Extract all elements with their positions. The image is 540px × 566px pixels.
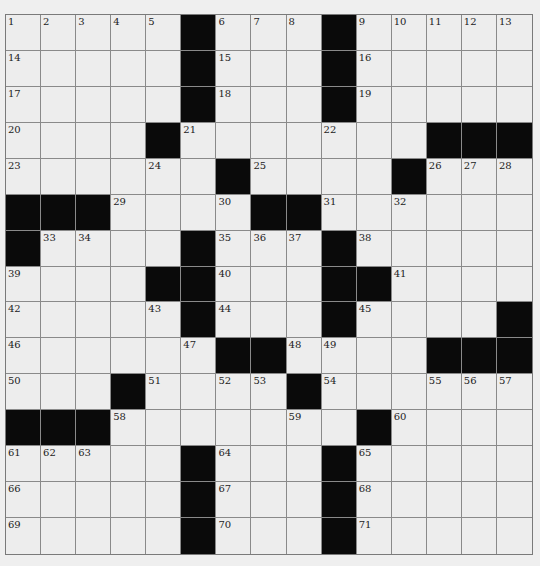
grid-cell[interactable] <box>76 338 111 374</box>
grid-cell[interactable]: 9 <box>357 15 392 51</box>
grid-cell[interactable]: 3 <box>76 15 111 51</box>
grid-cell[interactable] <box>497 51 532 87</box>
grid-cell[interactable] <box>392 518 427 554</box>
grid-cell[interactable]: 43 <box>146 302 181 338</box>
grid-cell[interactable]: 2 <box>41 15 76 51</box>
grid-cell[interactable] <box>392 51 427 87</box>
grid-cell[interactable]: 70 <box>216 518 251 554</box>
grid-cell[interactable] <box>462 267 497 303</box>
grid-cell[interactable] <box>497 195 532 231</box>
grid-cell[interactable]: 60 <box>392 410 427 446</box>
grid-cell[interactable] <box>287 446 322 482</box>
grid-cell[interactable] <box>76 374 111 410</box>
grid-cell[interactable] <box>392 374 427 410</box>
grid-cell[interactable] <box>216 410 251 446</box>
grid-cell[interactable]: 36 <box>251 231 286 267</box>
grid-cell[interactable] <box>146 410 181 446</box>
grid-cell[interactable] <box>427 446 462 482</box>
grid-cell[interactable] <box>76 123 111 159</box>
grid-cell[interactable] <box>497 231 532 267</box>
grid-cell[interactable]: 29 <box>111 195 146 231</box>
grid-cell[interactable]: 16 <box>357 51 392 87</box>
grid-cell[interactable] <box>427 410 462 446</box>
grid-cell[interactable] <box>76 87 111 123</box>
grid-cell[interactable] <box>427 518 462 554</box>
grid-cell[interactable]: 56 <box>462 374 497 410</box>
grid-cell[interactable] <box>392 338 427 374</box>
grid-cell[interactable] <box>76 267 111 303</box>
grid-cell[interactable]: 52 <box>216 374 251 410</box>
grid-cell[interactable]: 62 <box>41 446 76 482</box>
grid-cell[interactable] <box>181 195 216 231</box>
grid-cell[interactable] <box>181 159 216 195</box>
grid-cell[interactable] <box>287 87 322 123</box>
grid-cell[interactable] <box>146 482 181 518</box>
grid-cell[interactable] <box>462 446 497 482</box>
grid-cell[interactable] <box>287 302 322 338</box>
grid-cell[interactable]: 13 <box>497 15 532 51</box>
grid-cell[interactable] <box>146 231 181 267</box>
grid-cell[interactable]: 18 <box>216 87 251 123</box>
grid-cell[interactable] <box>392 231 427 267</box>
grid-cell[interactable] <box>111 231 146 267</box>
grid-cell[interactable] <box>322 410 357 446</box>
grid-cell[interactable]: 38 <box>357 231 392 267</box>
grid-cell[interactable]: 17 <box>6 87 41 123</box>
grid-cell[interactable]: 34 <box>76 231 111 267</box>
grid-cell[interactable]: 33 <box>41 231 76 267</box>
grid-cell[interactable]: 5 <box>146 15 181 51</box>
grid-cell[interactable] <box>76 159 111 195</box>
grid-cell[interactable] <box>357 374 392 410</box>
grid-cell[interactable] <box>251 302 286 338</box>
grid-cell[interactable] <box>76 482 111 518</box>
grid-cell[interactable] <box>251 410 286 446</box>
grid-cell[interactable]: 39 <box>6 267 41 303</box>
grid-cell[interactable]: 40 <box>216 267 251 303</box>
grid-cell[interactable] <box>111 123 146 159</box>
grid-cell[interactable] <box>146 51 181 87</box>
grid-cell[interactable]: 25 <box>251 159 286 195</box>
grid-cell[interactable]: 7 <box>251 15 286 51</box>
grid-cell[interactable]: 12 <box>462 15 497 51</box>
grid-cell[interactable]: 35 <box>216 231 251 267</box>
grid-cell[interactable] <box>392 482 427 518</box>
grid-cell[interactable]: 41 <box>392 267 427 303</box>
grid-cell[interactable] <box>357 195 392 231</box>
grid-cell[interactable]: 1 <box>6 15 41 51</box>
grid-cell[interactable] <box>497 482 532 518</box>
grid-cell[interactable]: 57 <box>497 374 532 410</box>
grid-cell[interactable] <box>41 87 76 123</box>
grid-cell[interactable] <box>497 446 532 482</box>
grid-cell[interactable]: 11 <box>427 15 462 51</box>
grid-cell[interactable]: 27 <box>462 159 497 195</box>
grid-cell[interactable]: 30 <box>216 195 251 231</box>
grid-cell[interactable] <box>462 482 497 518</box>
grid-cell[interactable] <box>287 123 322 159</box>
grid-cell[interactable]: 66 <box>6 482 41 518</box>
grid-cell[interactable] <box>392 87 427 123</box>
grid-cell[interactable]: 21 <box>181 123 216 159</box>
grid-cell[interactable] <box>146 518 181 554</box>
grid-cell[interactable] <box>76 51 111 87</box>
grid-cell[interactable]: 50 <box>6 374 41 410</box>
grid-cell[interactable] <box>111 51 146 87</box>
grid-cell[interactable] <box>322 159 357 195</box>
grid-cell[interactable] <box>41 51 76 87</box>
grid-cell[interactable] <box>462 87 497 123</box>
grid-cell[interactable] <box>181 374 216 410</box>
grid-cell[interactable] <box>41 123 76 159</box>
grid-cell[interactable]: 10 <box>392 15 427 51</box>
grid-cell[interactable]: 28 <box>497 159 532 195</box>
grid-cell[interactable] <box>427 267 462 303</box>
grid-cell[interactable] <box>76 518 111 554</box>
grid-cell[interactable]: 51 <box>146 374 181 410</box>
grid-cell[interactable] <box>497 518 532 554</box>
grid-cell[interactable]: 15 <box>216 51 251 87</box>
grid-cell[interactable] <box>462 51 497 87</box>
grid-cell[interactable] <box>41 267 76 303</box>
grid-cell[interactable] <box>497 87 532 123</box>
grid-cell[interactable] <box>251 87 286 123</box>
grid-cell[interactable] <box>357 159 392 195</box>
grid-cell[interactable]: 53 <box>251 374 286 410</box>
grid-cell[interactable] <box>216 123 251 159</box>
